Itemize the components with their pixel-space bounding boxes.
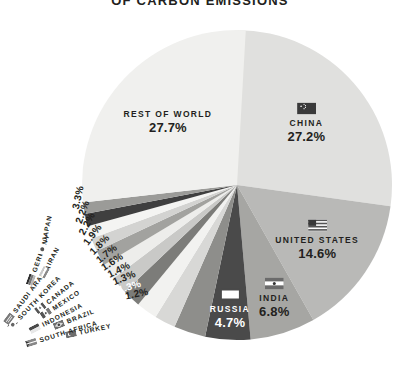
germany-flag-icon: [26, 274, 36, 287]
pie-slice-china[interactable]: [237, 30, 392, 206]
south-africa-flag-icon: [25, 338, 38, 348]
callout-name: JAPAN: [41, 214, 53, 241]
pie-slice-rest-of-world[interactable]: [82, 30, 246, 202]
japan-flag-icon: [38, 243, 47, 255]
saudi-arabia-flag-icon: [3, 312, 15, 325]
